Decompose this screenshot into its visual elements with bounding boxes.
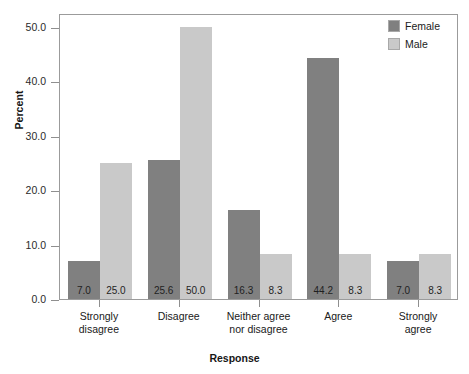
bar-value-label: 25.6 — [148, 285, 180, 296]
legend-label-female: Female — [405, 20, 440, 32]
y-tick-label: 0.0 — [0, 293, 46, 305]
x-tick-mark — [99, 300, 100, 307]
y-tick-label: 50.0 — [0, 21, 46, 33]
x-tick-mark — [259, 300, 260, 307]
y-tick-label: 10.0 — [0, 239, 46, 251]
bar-female-4: 7.0 — [387, 261, 419, 299]
bar-female-1: 25.6 — [148, 160, 180, 299]
x-tick-label: Stronglyagree — [368, 310, 468, 335]
x-tick-label-line: disagree — [49, 323, 149, 336]
bar-male-3: 8.3 — [339, 254, 371, 299]
bar-value-label: 8.3 — [419, 285, 451, 296]
y-tick-mark — [51, 28, 59, 29]
bar-value-label: 8.3 — [339, 285, 371, 296]
x-tick-label-line: Strongly — [368, 310, 468, 323]
x-axis-title: Response — [0, 352, 469, 364]
y-tick-label: 20.0 — [0, 184, 46, 196]
y-tick-label: 30.0 — [0, 130, 46, 142]
bar-male-1: 50.0 — [180, 27, 212, 299]
legend: Female Male — [388, 18, 454, 54]
y-tick-mark — [51, 82, 59, 83]
x-tick-mark — [338, 300, 339, 307]
bar-value-label: 16.3 — [228, 285, 260, 296]
plot-area: 7.025.025.650.016.38.344.28.37.08.3 — [59, 14, 458, 300]
x-tick-mark — [418, 300, 419, 307]
y-tick-mark — [51, 137, 59, 138]
bar-value-label: 25.0 — [100, 285, 132, 296]
bar-female-2: 16.3 — [228, 210, 260, 299]
bar-male-0: 25.0 — [100, 163, 132, 299]
y-tick-mark — [51, 246, 59, 247]
x-tick-label-line: nor disagree — [209, 323, 309, 336]
x-tick-label-line: agree — [368, 323, 468, 336]
y-tick-mark — [51, 300, 59, 301]
bar-female-3: 44.2 — [307, 58, 339, 299]
bar-male-2: 8.3 — [260, 254, 292, 299]
bar-value-label: 44.2 — [307, 285, 339, 296]
bar-value-label: 8.3 — [260, 285, 292, 296]
legend-swatch-male-icon — [388, 38, 400, 50]
bar-female-0: 7.0 — [68, 261, 100, 299]
bar-chart-figure: Percent 0.010.020.030.040.050.0 7.025.02… — [0, 0, 469, 374]
bar-male-4: 8.3 — [419, 254, 451, 299]
legend-label-male: Male — [405, 38, 428, 50]
legend-item-male: Male — [388, 36, 454, 52]
bar-value-label: 50.0 — [180, 285, 212, 296]
legend-item-female: Female — [388, 18, 454, 34]
y-tick-label: 40.0 — [0, 75, 46, 87]
y-tick-mark — [51, 191, 59, 192]
bar-value-label: 7.0 — [387, 285, 419, 296]
legend-swatch-female-icon — [388, 20, 400, 32]
x-tick-mark — [179, 300, 180, 307]
bar-value-label: 7.0 — [68, 285, 100, 296]
